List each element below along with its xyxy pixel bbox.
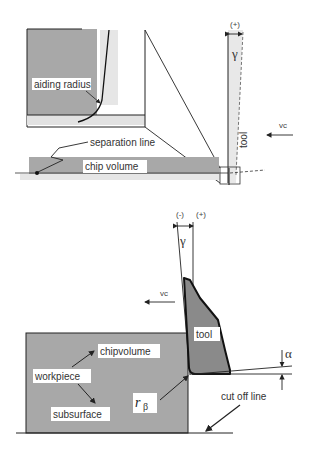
separation-point — [35, 171, 39, 175]
chip-volume-label: chip volume — [85, 161, 139, 172]
chip-band — [27, 115, 145, 125]
r-symbol: r — [135, 395, 141, 410]
subsurface-label: subsurface — [53, 409, 102, 420]
bottom-gamma-symbol: γ — [179, 233, 186, 248]
alpha-symbol: α — [285, 346, 292, 361]
workpiece-label: workpiece — [34, 371, 80, 382]
beta-subscript: β — [143, 401, 148, 412]
top-figure: aiding radius chip volume separation lin… — [15, 20, 293, 185]
projection-line-upper — [145, 30, 220, 168]
bottom-figure: (-) (+) γ tool α vc chipvolume workpiece… — [16, 210, 292, 433]
top-gamma-symbol: γ — [231, 46, 238, 61]
bottom-vc-label: vc — [160, 289, 168, 298]
tool-shape — [184, 278, 230, 374]
top-plus-sign: (+) — [230, 20, 240, 29]
bottom-minus-sign: (-) — [176, 210, 184, 219]
separation-line-label: separation line — [90, 137, 155, 148]
top-vc-label: vc — [279, 121, 287, 130]
chipvolume-label: chipvolume — [100, 346, 151, 357]
cut-off-line-arrow — [206, 405, 240, 431]
bottom-plus-sign: (+) — [196, 210, 206, 219]
bottom-tool-label: tool — [196, 329, 212, 340]
top-tool-label: tool — [238, 132, 249, 148]
cutting-diagram: aiding radius chip volume separation lin… — [0, 0, 313, 452]
aiding-radius-label: aiding radius — [34, 79, 91, 90]
cut-off-line-label: cut off line — [221, 391, 267, 402]
workpiece-block — [27, 29, 97, 115]
